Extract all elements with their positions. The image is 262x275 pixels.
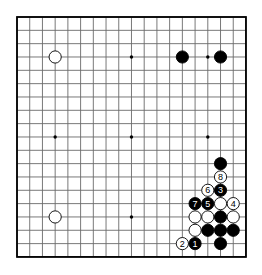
white-stone-8: 8 xyxy=(214,171,226,183)
black-stone xyxy=(214,211,226,223)
black-stone xyxy=(202,224,214,236)
black-stone-5: 5 xyxy=(202,198,214,210)
black-stone xyxy=(176,51,188,63)
white-stone xyxy=(49,51,61,63)
black-stone xyxy=(214,238,226,250)
star-point xyxy=(206,135,209,138)
white-stone-2: 2 xyxy=(176,238,188,250)
move-number-label: 5 xyxy=(205,199,210,209)
move-number-label: 6 xyxy=(205,185,210,195)
stone-circle xyxy=(227,224,239,236)
white-stone-6: 6 xyxy=(202,184,214,196)
black-stone-7: 7 xyxy=(189,198,201,210)
white-stone xyxy=(49,211,61,223)
stone-circle xyxy=(49,211,61,223)
move-number-label: 1 xyxy=(193,239,198,249)
stone-circle xyxy=(214,238,226,250)
stone-circle xyxy=(189,211,201,223)
move-number-label: 7 xyxy=(193,199,198,209)
white-stone xyxy=(214,198,226,210)
stone-circle xyxy=(214,211,226,223)
move-number-label: 4 xyxy=(231,199,236,209)
stone-circle xyxy=(214,51,226,63)
white-stone-4: 4 xyxy=(227,198,239,210)
star-point xyxy=(130,215,133,218)
star-point xyxy=(130,135,133,138)
go-board: 86375421 xyxy=(0,0,262,275)
white-stone xyxy=(189,211,201,223)
stone-circle xyxy=(49,51,61,63)
stone-circle xyxy=(189,224,201,236)
move-number-label: 2 xyxy=(180,239,185,249)
white-stone xyxy=(189,224,201,236)
star-point xyxy=(206,55,209,58)
white-stone xyxy=(227,211,239,223)
stone-circle xyxy=(176,51,188,63)
black-stone xyxy=(214,158,226,170)
stone-circle xyxy=(202,211,214,223)
move-number-label: 3 xyxy=(218,185,223,195)
stone-circle xyxy=(202,224,214,236)
stone-circle xyxy=(214,158,226,170)
black-stone xyxy=(214,224,226,236)
stone-circle xyxy=(214,224,226,236)
star-point xyxy=(53,135,56,138)
star-point xyxy=(130,55,133,58)
stone-circle xyxy=(214,198,226,210)
black-stone xyxy=(214,51,226,63)
stone-circle xyxy=(227,211,239,223)
black-stone-1: 1 xyxy=(189,238,201,250)
black-stone-3: 3 xyxy=(214,184,226,196)
black-stone xyxy=(227,224,239,236)
move-number-label: 8 xyxy=(218,172,223,182)
white-stone xyxy=(202,211,214,223)
go-board-diagram: 86375421 xyxy=(0,0,262,275)
